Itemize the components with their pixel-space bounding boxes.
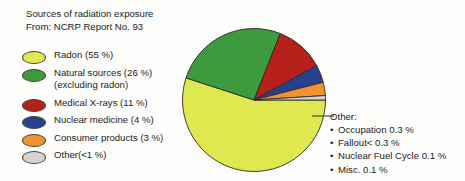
legend-label-medical-xrays: Medical X-rays (11 %) bbox=[54, 97, 148, 109]
bullet-icon: • bbox=[330, 163, 338, 176]
legend-label-consumer-products: Consumer products (3 %) bbox=[54, 132, 163, 144]
other-callout-item-fallout-text: Fallout< 0.3 % bbox=[338, 137, 400, 148]
figure-source: From: NCRP Report No. 93 bbox=[26, 20, 153, 33]
legend-swatch-medical-xrays-icon bbox=[22, 99, 46, 112]
legend-item-natural-sources[interactable]: Natural sources (26 %) (excluding radon) bbox=[22, 67, 192, 97]
pie-chart bbox=[181, 26, 327, 174]
legend-swatch-consumer-products-icon bbox=[22, 134, 46, 147]
other-callout-item-misc-text: Misc. 0.1 % bbox=[338, 164, 388, 175]
other-callout-item-occupation: •Occupation 0.3 % bbox=[330, 123, 464, 136]
figure-title-block: Sources of radiation exposure From: NCRP… bbox=[26, 7, 153, 33]
pie-chart-svg bbox=[181, 26, 327, 174]
bullet-icon: • bbox=[330, 123, 338, 136]
legend-label-natural-sources-sub: (excluding radon) bbox=[54, 79, 152, 91]
other-callout-item-fallout: •Fallout< 0.3 % bbox=[330, 136, 464, 149]
legend-item-nuclear-medicine[interactable]: Nuclear medicine (4 %) bbox=[22, 114, 192, 132]
legend-item-other[interactable]: Other(<1 %) bbox=[22, 149, 192, 167]
legend-label-other: Other(<1 %) bbox=[54, 149, 107, 161]
bullet-icon: • bbox=[330, 149, 338, 162]
legend-item-medical-xrays[interactable]: Medical X-rays (11 %) bbox=[22, 97, 192, 115]
legend-label-nuclear-medicine: Nuclear medicine (4 %) bbox=[54, 114, 154, 126]
radiation-exposure-pie-figure: Sources of radiation exposure From: NCRP… bbox=[0, 0, 465, 181]
legend-item-consumer-products[interactable]: Consumer products (3 %) bbox=[22, 132, 192, 150]
legend-swatch-nuclear-medicine-icon bbox=[22, 116, 46, 129]
other-callout-item-nuclear-fuel-cycle-text: Nuclear Fuel Cycle 0.1 % bbox=[338, 150, 446, 161]
other-callout-item-misc: •Misc. 0.1 % bbox=[330, 163, 464, 176]
legend-swatch-other-icon bbox=[22, 151, 46, 164]
legend-label-natural-sources-main: Natural sources (26 %) bbox=[54, 67, 152, 78]
legend-item-radon[interactable]: Radon (55 %) bbox=[22, 49, 192, 67]
page-title: Sources of radiation exposure bbox=[26, 7, 153, 20]
legend-label-radon: Radon (55 %) bbox=[54, 49, 113, 61]
legend-swatch-natural-sources-icon bbox=[22, 69, 46, 82]
chart-legend: Radon (55 %) Natural sources (26 %) (exc… bbox=[22, 49, 192, 167]
legend-label-natural-sources: Natural sources (26 %) (excluding radon) bbox=[54, 67, 152, 92]
other-callout-heading: Other: bbox=[330, 110, 464, 123]
other-callout-item-nuclear-fuel-cycle: •Nuclear Fuel Cycle 0.1 % bbox=[330, 149, 464, 162]
other-callout-item-occupation-text: Occupation 0.3 % bbox=[338, 124, 414, 135]
other-breakdown-callout: Other: •Occupation 0.3 % •Fallout< 0.3 %… bbox=[330, 110, 464, 176]
bullet-icon: • bbox=[330, 136, 338, 149]
legend-swatch-radon-icon bbox=[22, 51, 46, 64]
